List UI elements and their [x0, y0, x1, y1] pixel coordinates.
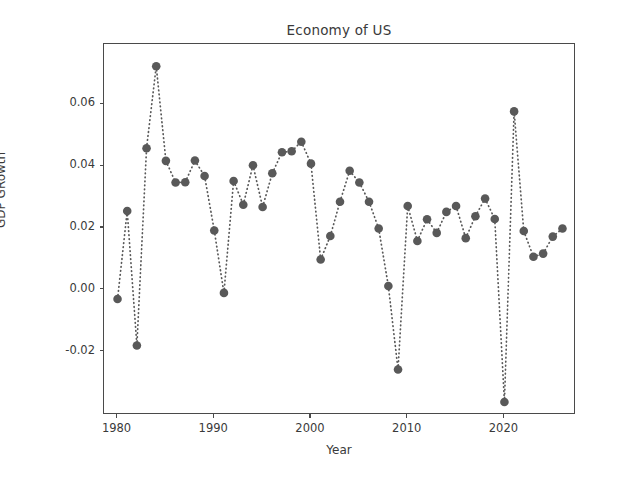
data-point	[490, 215, 499, 224]
data-point	[123, 207, 132, 216]
data-point	[510, 107, 519, 116]
data-point	[162, 157, 171, 166]
series-line-gdp-growth	[118, 66, 563, 402]
data-point	[229, 177, 238, 186]
data-point	[384, 282, 393, 291]
data-point	[258, 203, 267, 212]
x-tick-mark	[309, 414, 310, 418]
series-segment	[388, 286, 398, 369]
series-markers-gdp-growth	[113, 62, 567, 406]
data-point	[152, 62, 161, 71]
x-tick-mark	[503, 414, 504, 418]
data-point	[142, 144, 151, 153]
y-tick-label: 0.06	[25, 95, 95, 109]
data-point	[539, 249, 548, 258]
data-point	[374, 224, 383, 233]
chart-figure: Economy of US GDP GRowth Year -0.020.000…	[0, 0, 628, 477]
series-segment	[253, 165, 263, 207]
series-segment	[504, 111, 514, 402]
y-tick-mark	[100, 288, 104, 289]
data-point	[278, 148, 287, 157]
data-point	[548, 232, 557, 241]
series-segment	[243, 165, 253, 205]
y-tick-mark	[100, 350, 104, 351]
data-point	[171, 178, 180, 187]
y-tick-mark	[100, 226, 104, 227]
series-segment	[118, 211, 128, 299]
x-tick-label: 1980	[87, 421, 147, 435]
data-point	[519, 227, 528, 236]
data-point	[442, 208, 451, 217]
series-segment	[127, 211, 137, 345]
series-segment	[224, 181, 234, 293]
data-point	[181, 178, 190, 187]
series-segment	[408, 206, 418, 241]
data-point	[500, 398, 509, 407]
x-tick-mark	[213, 414, 214, 418]
data-point	[297, 137, 306, 146]
data-point	[210, 226, 219, 235]
data-point	[365, 197, 374, 206]
series-segment	[398, 206, 408, 370]
y-tick-label: 0.04	[25, 157, 95, 171]
data-point	[191, 156, 200, 165]
data-point	[394, 365, 403, 374]
series-svg	[104, 44, 575, 414]
data-point	[268, 169, 277, 178]
data-point	[403, 202, 412, 211]
x-tick-label: 2000	[280, 421, 340, 435]
series-segment	[330, 202, 340, 236]
data-point	[239, 200, 248, 209]
series-segment	[340, 171, 350, 202]
series-segment	[214, 230, 224, 292]
y-tick-mark	[100, 103, 104, 104]
data-point	[355, 178, 364, 187]
series-segment	[137, 148, 147, 345]
data-point	[316, 255, 325, 264]
y-axis-label: GDP GRowth	[0, 152, 8, 228]
y-tick-label: -0.02	[25, 343, 95, 357]
y-tick-mark	[100, 165, 104, 166]
data-point	[481, 194, 490, 203]
series-segment	[456, 206, 466, 238]
series-segment	[263, 173, 273, 207]
data-point	[471, 212, 480, 221]
data-point	[423, 215, 432, 224]
series-segment	[311, 164, 321, 260]
data-point	[345, 166, 354, 175]
x-tick-label: 2020	[473, 421, 533, 435]
data-point	[461, 234, 470, 243]
x-tick-mark	[406, 414, 407, 418]
series-segment	[205, 176, 215, 230]
data-point	[336, 197, 345, 206]
data-point	[113, 295, 122, 304]
chart-title: Economy of US	[103, 22, 575, 38]
data-point	[249, 161, 258, 170]
data-point	[287, 147, 296, 156]
series-segment	[514, 111, 524, 231]
series-segment	[379, 229, 389, 287]
series-segment	[147, 66, 157, 148]
data-point	[307, 159, 316, 168]
data-point	[413, 237, 422, 246]
data-point	[452, 202, 461, 211]
data-point	[432, 229, 441, 238]
data-point	[558, 224, 567, 233]
x-tick-label: 2010	[377, 421, 437, 435]
y-tick-label: 0.02	[25, 219, 95, 233]
plot-area	[103, 43, 575, 414]
x-tick-mark	[116, 414, 117, 418]
data-point	[200, 172, 209, 181]
y-tick-label: 0.00	[25, 281, 95, 295]
data-point	[529, 252, 538, 261]
series-segment	[156, 66, 166, 161]
x-tick-label: 1990	[183, 421, 243, 435]
data-point	[326, 232, 335, 241]
x-axis-label: Year	[103, 443, 575, 457]
data-point	[220, 289, 229, 298]
series-segment	[495, 219, 505, 402]
data-point	[133, 341, 142, 350]
